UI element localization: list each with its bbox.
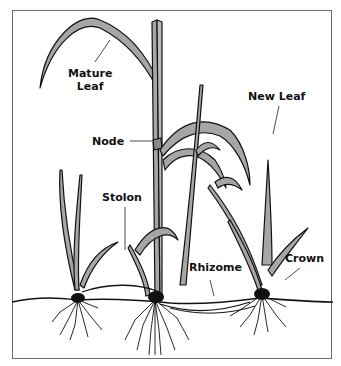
label-mature-leaf-line1: Mature xyxy=(68,67,112,80)
new-leaf xyxy=(262,160,272,265)
label-new-leaf: New Leaf xyxy=(248,90,305,103)
label-mature-leaf-line2: Leaf xyxy=(68,80,112,93)
stolon xyxy=(12,298,333,304)
roots xyxy=(52,295,286,355)
label-stolon: Stolon xyxy=(102,191,142,204)
label-crown: Crown xyxy=(285,252,324,265)
grass-plant-illustration xyxy=(0,0,341,366)
label-node: Node xyxy=(92,135,124,148)
label-mature-leaf: Mature Leaf xyxy=(68,67,112,93)
label-rhizome: Rhizome xyxy=(189,261,242,274)
